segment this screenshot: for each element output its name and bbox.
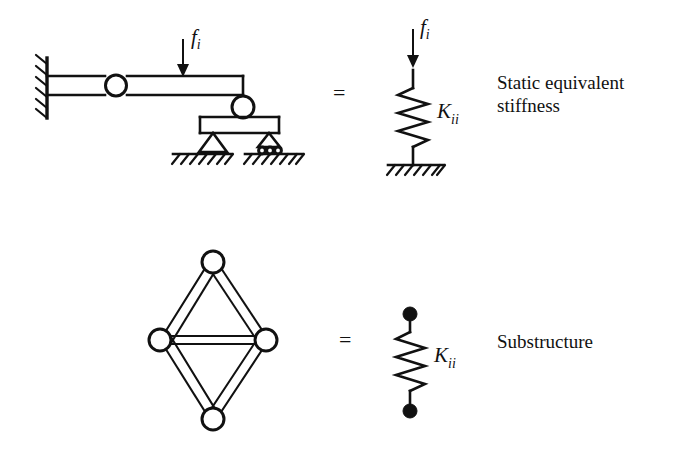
lower-bar <box>200 117 279 133</box>
ground-left <box>172 154 233 164</box>
stiffness-label-row2: Kii <box>433 343 456 371</box>
engineering-diagram: fi = fi <box>0 0 682 452</box>
ground-right <box>244 154 304 164</box>
equals-sign-row1: = <box>333 80 345 105</box>
fixed-wall-support <box>36 55 47 118</box>
spring2-coil <box>396 332 425 391</box>
spring-to-ground-model: fi <box>387 15 459 175</box>
caption-substructure: Substructure <box>497 331 593 352</box>
beam-roller-joint <box>232 96 254 118</box>
stiffness-label-row1: Kii <box>436 99 459 127</box>
beam-segment-right <box>127 76 243 95</box>
caption-static-equivalent: Static equivalent stiffness <box>497 72 625 116</box>
equals-sign-row2: = <box>339 327 351 352</box>
spring-coil <box>398 88 428 147</box>
row-static-equivalent: fi = fi <box>36 15 625 175</box>
truss-members <box>162 262 266 418</box>
beam-hinge-joint <box>106 75 127 96</box>
spring-ground <box>387 165 445 175</box>
spring-node-top <box>403 307 417 321</box>
truss-node-right <box>255 329 277 351</box>
diamond-truss-model <box>149 251 277 430</box>
force-arrow-beam <box>177 40 189 77</box>
pinned-support <box>199 133 227 152</box>
truss-node-left <box>149 329 171 351</box>
spring-between-nodes-model: Kii <box>396 307 456 418</box>
caption-line-1: Static equivalent <box>497 72 625 93</box>
beam-segment-left <box>47 76 105 95</box>
roller-support <box>258 133 281 154</box>
spring-node-bottom <box>403 404 417 418</box>
caption-line-2: stiffness <box>497 95 560 116</box>
cantilever-beam-model: fi <box>36 25 304 164</box>
truss-node-bottom <box>202 408 224 430</box>
force-label-beam: fi <box>191 25 201 52</box>
force-arrow-spring <box>407 30 419 68</box>
force-label-spring: fi <box>420 15 430 42</box>
truss-node-top <box>202 251 224 273</box>
row-substructure: = Kii Substructure <box>149 251 593 430</box>
